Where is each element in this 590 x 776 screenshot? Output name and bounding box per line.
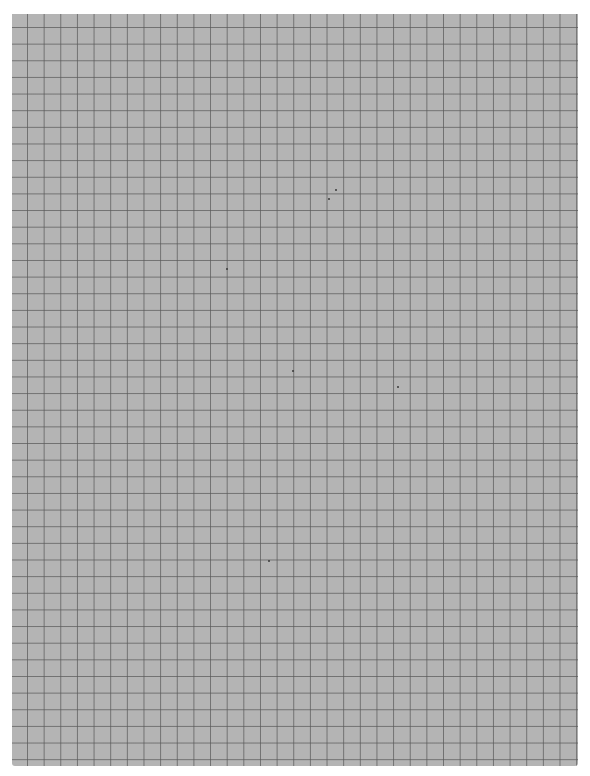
graph-paper-sheet	[12, 14, 578, 766]
paper-speck	[335, 189, 337, 191]
paper-speck	[397, 386, 399, 388]
paper-speck	[328, 198, 330, 200]
paper-speck	[268, 560, 270, 562]
paper-speck	[226, 268, 228, 270]
paper-speck	[292, 370, 294, 372]
perforated-top-edge	[12, 12, 578, 16]
